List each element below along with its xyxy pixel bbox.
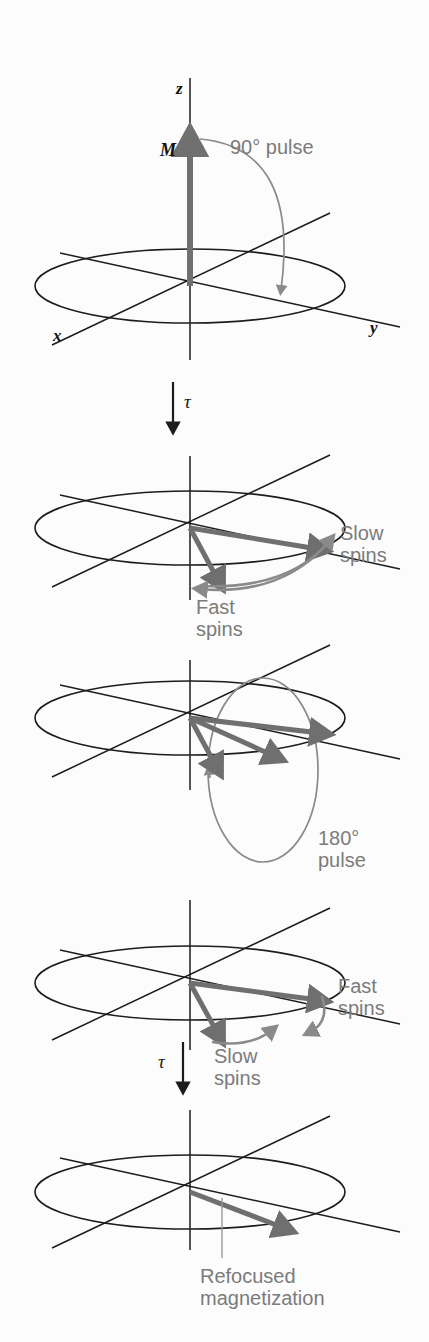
x-axis <box>52 455 330 587</box>
tau-label-2: τ <box>158 1051 166 1072</box>
one-eighty-pulse-ellipse <box>208 678 318 862</box>
x-axis <box>52 645 330 777</box>
z-axis-label: z <box>175 79 183 98</box>
one-eighty-pulse-label-line2: pulse <box>318 849 366 871</box>
slow-spins-curved-arrow <box>212 1030 272 1044</box>
slow-spins-vector <box>190 528 318 549</box>
panel-5-echo: Refocused magnetization <box>35 1110 400 1309</box>
slow-spins-label-line1: Slow <box>340 522 384 544</box>
tau-transition-2: τ <box>158 1042 183 1088</box>
panel-3-180-pulse: 180° pulse <box>35 645 400 871</box>
fast-spins-label-line2: spins <box>196 618 243 640</box>
ninety-degree-pulse-label: 90° pulse <box>230 136 314 158</box>
figure-svg: M z x y 90° pulse τ Slow spins Fast spin… <box>0 0 429 1342</box>
slow-spins-label-line2: spins <box>340 544 387 566</box>
y-axis <box>60 253 400 327</box>
refocused-label-line2: magnetization <box>200 1287 325 1309</box>
panel-4-rephasing: Fast spins Slow spins <box>35 900 400 1089</box>
fast-spins-label-line2: spins <box>338 997 385 1019</box>
fast-spins-vector <box>190 528 218 580</box>
x-axis-label: x <box>52 326 62 345</box>
fast-spins-vector <box>190 983 318 1000</box>
magnetization-label: M <box>159 140 177 160</box>
one-eighty-pulse-direction-arrow <box>209 770 210 778</box>
tau-transition-1: τ <box>173 382 192 428</box>
refocused-magnetization-vector <box>190 1192 284 1228</box>
y-axis-label: y <box>368 318 378 337</box>
tau-label-1: τ <box>184 391 192 412</box>
spin-echo-figure: M z x y 90° pulse τ Slow spins Fast spin… <box>0 0 429 1342</box>
slow-spins-vector <box>190 983 218 1034</box>
slow-spins-label-line1: Slow <box>214 1045 258 1067</box>
refocused-label-line1: Refocused <box>200 1265 296 1287</box>
panel-2-dephasing: Slow spins Fast spins <box>35 455 400 640</box>
y-axis <box>60 1158 400 1232</box>
ninety-degree-pulse-arc <box>200 139 284 290</box>
fast-spins-label-line1: Fast <box>196 596 235 618</box>
panel-1-equilibrium: M z x y 90° pulse <box>35 78 400 360</box>
one-eighty-pulse-label-line1: 180° <box>318 827 359 849</box>
slow-spins-label-line2: spins <box>214 1067 261 1089</box>
fast-spins-label-line1: Fast <box>338 975 377 997</box>
